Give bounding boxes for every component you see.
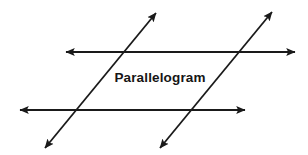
parallelogram-label: Parallelogram	[111, 70, 208, 85]
parallelogram-figure: Parallelogram	[0, 0, 308, 155]
